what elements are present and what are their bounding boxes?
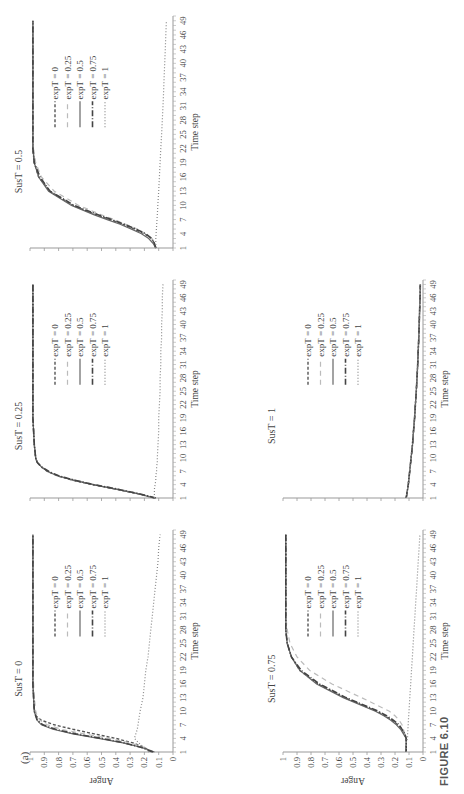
- x-tick-label: 7: [178, 723, 188, 727]
- chart-title: SusT = 0.5: [13, 150, 24, 194]
- x-tick-label: 22: [428, 653, 438, 662]
- legend-label: expT = 0.75: [88, 564, 98, 608]
- legend-label: expT = 0: [50, 576, 60, 609]
- x-tick-label: 7: [428, 469, 438, 473]
- y-tick-label: 0.5: [97, 757, 107, 768]
- x-tick-label: 49: [428, 530, 438, 539]
- legend-label: expT = 0: [303, 324, 313, 357]
- legend-label: expT = 0.75: [88, 312, 98, 356]
- x-tick-label: 46: [428, 544, 438, 553]
- x-tick-label: 19: [178, 159, 188, 168]
- x-tick-label: 13: [428, 693, 438, 702]
- x-tick-label: 13: [178, 187, 188, 196]
- legend-label: expT = 0.25: [316, 312, 326, 356]
- x-tick-label: 19: [178, 414, 188, 423]
- chart-panel: 00.10.20.30.40.50.60.70.80.9114710131619…: [13, 530, 200, 786]
- x-tick-label: 1: [178, 246, 188, 250]
- x-tick-label: 25: [428, 387, 438, 396]
- x-tick-label: 1: [178, 496, 188, 500]
- x-tick-label: 10: [428, 454, 438, 463]
- x-tick-label: 37: [178, 334, 188, 343]
- x-axis-label: Time step: [440, 622, 450, 660]
- y-tick-label: 1: [25, 757, 35, 761]
- chart-panel: 1471013161922252831343740434649Time step…: [13, 280, 200, 501]
- legend-label: expT = 0.5: [328, 569, 338, 609]
- x-tick-label: 34: [178, 346, 188, 355]
- x-tick-label: 49: [178, 280, 188, 289]
- y-tick-label: 0.4: [362, 756, 372, 767]
- x-tick-label: 19: [178, 666, 188, 675]
- x-tick-label: 34: [178, 87, 188, 96]
- legend-label: expT = 0.75: [341, 312, 351, 356]
- x-tick-label: 31: [178, 360, 188, 369]
- series-line: [154, 284, 163, 498]
- x-tick-label: 40: [178, 59, 188, 68]
- y-tick-label: 1: [278, 757, 288, 761]
- x-tick-label: 31: [428, 360, 438, 369]
- x-tick-label: 43: [178, 45, 188, 54]
- legend-label: expT = 0: [50, 324, 60, 357]
- y-axis-label: Anger: [89, 776, 114, 786]
- x-tick-label: 4: [178, 231, 188, 236]
- x-tick-label: 22: [178, 400, 188, 409]
- legend-label: expT = 0.5: [328, 317, 338, 357]
- x-tick-label: 16: [178, 173, 188, 182]
- x-tick-label: 31: [428, 612, 438, 621]
- x-tick-label: 34: [178, 597, 188, 606]
- legend-label: expT = 0.25: [316, 564, 326, 608]
- y-tick-label: 0.4: [111, 756, 121, 767]
- x-tick-label: 19: [428, 666, 438, 675]
- legend-label: expT = 1: [100, 324, 110, 356]
- x-axis-label: Time step: [190, 113, 200, 151]
- y-tick-label: 0.7: [320, 757, 330, 768]
- series-line: [406, 284, 420, 498]
- legend-label: expT = 0: [303, 576, 313, 609]
- figure-plots: 00.10.20.30.40.50.60.70.80.9114710131619…: [0, 0, 464, 794]
- x-tick-label: 46: [178, 544, 188, 553]
- y-tick-label: 0: [168, 757, 178, 761]
- y-tick-label: 0.2: [390, 757, 400, 768]
- legend-label: expT = 0.5: [75, 569, 85, 609]
- x-tick-label: 13: [178, 693, 188, 702]
- x-axis-label: Time step: [190, 370, 200, 408]
- x-tick-label: 4: [178, 482, 188, 487]
- legend-label: expT = 0.25: [63, 55, 73, 99]
- x-tick-label: 25: [178, 639, 188, 648]
- chart-panel: 00.10.20.30.40.50.60.70.80.9114710131619…: [266, 530, 450, 786]
- x-axis-label: Time step: [440, 370, 450, 408]
- legend-label: expT = 0.75: [341, 564, 351, 608]
- y-tick-label: 0.9: [292, 757, 302, 768]
- x-tick-label: 34: [428, 346, 438, 355]
- y-tick-label: 0.1: [404, 757, 414, 768]
- x-tick-label: 49: [428, 280, 438, 289]
- x-tick-label: 49: [178, 530, 188, 539]
- series-line: [406, 284, 420, 498]
- x-tick-label: 22: [178, 653, 188, 662]
- figure-caption: FIGURE 6.10: [438, 717, 450, 786]
- chart-panel: 1471013161922252831343740434649Time step…: [266, 280, 450, 501]
- x-tick-label: 37: [428, 334, 438, 343]
- x-tick-label: 22: [428, 400, 438, 409]
- y-tick-label: 0: [418, 757, 428, 761]
- x-tick-label: 13: [428, 440, 438, 449]
- y-tick-label: 0.6: [82, 757, 92, 768]
- y-tick-label: 0.6: [334, 757, 344, 768]
- x-tick-label: 28: [178, 374, 188, 383]
- x-tick-label: 46: [428, 294, 438, 303]
- legend-label: expT = 1: [353, 576, 363, 608]
- legend-label: expT = 0.25: [63, 564, 73, 608]
- x-tick-label: 19: [428, 414, 438, 423]
- x-tick-label: 40: [178, 320, 188, 329]
- x-tick-label: 16: [428, 680, 438, 689]
- x-tick-label: 4: [178, 736, 188, 741]
- x-tick-label: 7: [178, 217, 188, 221]
- x-tick-label: 43: [178, 557, 188, 566]
- y-tick-label: 0.1: [154, 757, 164, 768]
- x-tick-label: 28: [428, 374, 438, 383]
- x-tick-label: 7: [428, 723, 438, 727]
- y-tick-label: 0.3: [125, 757, 135, 768]
- y-tick-label: 0.5: [348, 757, 358, 768]
- x-tick-label: 31: [178, 102, 188, 111]
- y-tick-label: 0.8: [54, 757, 64, 768]
- legend-label: expT = 0.75: [88, 55, 98, 99]
